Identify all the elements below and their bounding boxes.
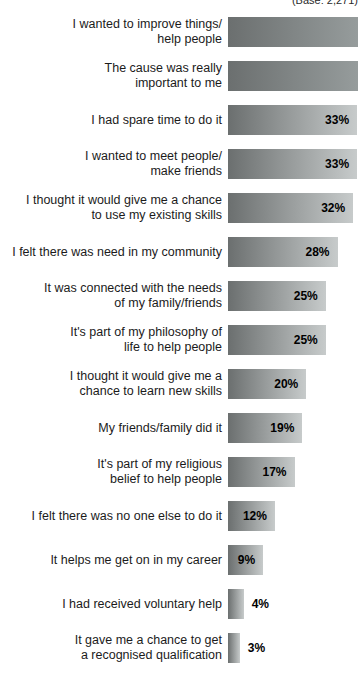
value-label-inside: 20% <box>274 377 306 391</box>
bar-row: I wanted to meet people/make friends 33% <box>0 142 361 186</box>
bar: 28% <box>228 237 338 267</box>
bar-row: I thought it would give me a chanceto us… <box>0 186 361 230</box>
bar <box>228 633 240 663</box>
bar: 9% <box>228 545 263 575</box>
bar <box>228 61 358 91</box>
value-label-inside: 33% <box>325 113 357 127</box>
bar-area: 9% <box>228 545 361 575</box>
bar-row: I wanted to improve things/help people <box>0 10 361 54</box>
bar-area: 20% <box>228 369 361 399</box>
bar: 33% <box>228 105 357 135</box>
bar-row: It's part of my religiousbelief to help … <box>0 450 361 494</box>
category-label: It was connected with the needsof my fam… <box>0 281 222 311</box>
bar-area: 32% <box>228 193 361 223</box>
bar-area: 4% <box>228 589 361 619</box>
bar-row: It's part of my philosophy oflife to hel… <box>0 318 361 362</box>
base-note: (Base: 2,271) <box>292 0 358 6</box>
value-label-inside: 25% <box>294 333 326 347</box>
category-label: I felt there was no one else to do it <box>0 509 222 524</box>
category-label: It's part of my religiousbelief to help … <box>0 457 222 487</box>
rows: I wanted to improve things/help people T… <box>0 0 361 670</box>
bar-area: 28% <box>228 237 361 267</box>
category-label: I thought it would give me a chanceto us… <box>0 193 222 223</box>
category-label: I had spare time to do it <box>0 113 222 128</box>
bar-row: It was connected with the needsof my fam… <box>0 274 361 318</box>
bar-row: The cause was reallyimportant to me <box>0 54 361 98</box>
bar-area: 33% <box>228 105 361 135</box>
bar: 33% <box>228 149 357 179</box>
value-label-inside: 17% <box>262 465 294 479</box>
bar-area <box>228 61 361 91</box>
category-label: I wanted to meet people/make friends <box>0 149 222 179</box>
value-label-inside: 32% <box>321 201 353 215</box>
bar-area: 25% <box>228 281 361 311</box>
value-label-outside: 3% <box>248 641 265 655</box>
bar <box>228 17 358 47</box>
value-label-inside: 33% <box>325 157 357 171</box>
category-label: I wanted to improve things/help people <box>0 17 222 47</box>
category-label: It's part of my philosophy oflife to hel… <box>0 325 222 355</box>
bar-area: 3% <box>228 633 361 663</box>
bar-row: My friends/family did it 19% <box>0 406 361 450</box>
value-label-inside: 25% <box>294 289 326 303</box>
category-label: It helps me get on in my career <box>0 553 222 568</box>
bar: 32% <box>228 193 353 223</box>
category-label: I felt there was need in my community <box>0 245 222 260</box>
category-label: I had received voluntary help <box>0 597 222 612</box>
bar-row: I thought it would give me achance to le… <box>0 362 361 406</box>
bar: 19% <box>228 413 302 443</box>
bar-chart: (Base: 2,271) I wanted to improve things… <box>0 0 361 689</box>
bar: 17% <box>228 457 295 487</box>
bar: 12% <box>228 501 275 531</box>
bar: 25% <box>228 325 326 355</box>
category-label: It gave me a chance to geta recognised q… <box>0 633 222 663</box>
bar-row: I had received voluntary help 4% <box>0 582 361 626</box>
bar-row: I had spare time to do it 33% <box>0 98 361 142</box>
bar: 20% <box>228 369 306 399</box>
bar <box>228 589 244 619</box>
bar-area <box>228 17 361 47</box>
category-label: The cause was reallyimportant to me <box>0 61 222 91</box>
category-label: My friends/family did it <box>0 421 222 436</box>
bar-area: 33% <box>228 149 361 179</box>
bar-area: 12% <box>228 501 361 531</box>
value-label-outside: 4% <box>252 597 269 611</box>
bar-row: It helps me get on in my career 9% <box>0 538 361 582</box>
bar-area: 25% <box>228 325 361 355</box>
value-label-inside: 9% <box>238 553 263 567</box>
value-label-inside: 28% <box>305 245 337 259</box>
bar-area: 17% <box>228 457 361 487</box>
category-label: I thought it would give me achance to le… <box>0 369 222 399</box>
bar-row: It gave me a chance to geta recognised q… <box>0 626 361 670</box>
bar-area: 19% <box>228 413 361 443</box>
bar-row: I felt there was no one else to do it 12… <box>0 494 361 538</box>
bar-row: I felt there was need in my community 28… <box>0 230 361 274</box>
value-label-inside: 12% <box>243 509 275 523</box>
bar: 25% <box>228 281 326 311</box>
value-label-inside: 19% <box>270 421 302 435</box>
